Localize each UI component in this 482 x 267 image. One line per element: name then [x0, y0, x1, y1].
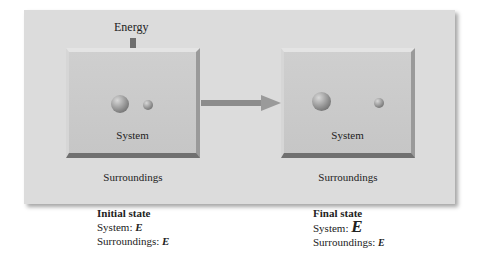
system-text: System:	[97, 221, 135, 233]
final-surroundings-label: Surroundings	[281, 171, 415, 183]
small-particle-icon	[143, 100, 153, 110]
large-particle-icon	[111, 95, 129, 113]
large-particle-icon	[312, 92, 331, 111]
system-energy: E	[135, 221, 142, 233]
initial-surroundings-label: Surroundings	[66, 171, 200, 183]
transition-arrow-icon	[201, 94, 281, 112]
small-particle-icon	[374, 98, 384, 108]
surroundings-energy: E	[162, 235, 169, 247]
initial-system-box: System	[66, 48, 200, 158]
energy-label: Energy	[114, 20, 148, 35]
final-state-title: Final state	[313, 206, 385, 220]
final-system-box: System	[281, 48, 415, 158]
system-energy: E	[351, 217, 362, 236]
surroundings-text: Surroundings:	[313, 236, 378, 248]
surroundings-energy: E	[378, 237, 385, 248]
surroundings-text: Surroundings:	[97, 235, 162, 247]
final-system-label: System	[284, 129, 411, 141]
initial-state-title: Initial state	[97, 206, 169, 220]
final-state-caption: Final state System: E Surroundings: E	[313, 206, 385, 250]
initial-state-caption: Initial state System: E Surroundings: E	[97, 206, 169, 248]
initial-system-label: System	[69, 129, 196, 141]
system-text: System:	[313, 222, 351, 234]
